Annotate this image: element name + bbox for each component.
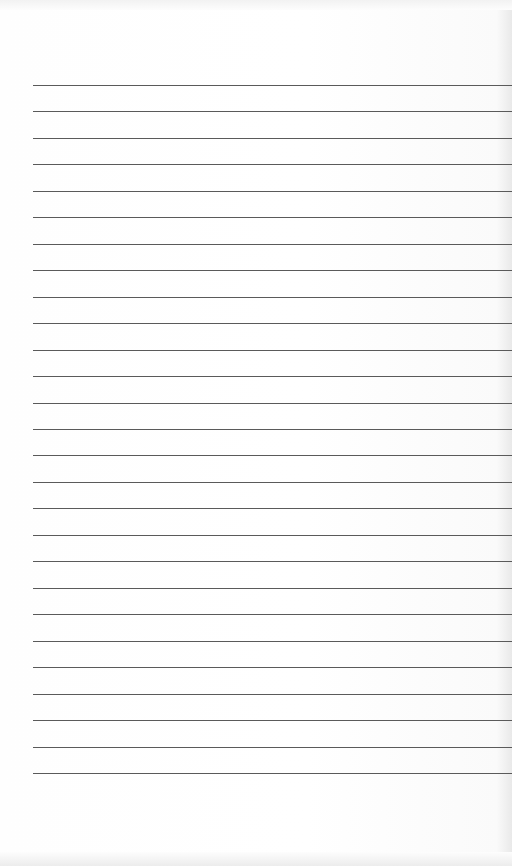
ruled-line bbox=[33, 138, 512, 139]
ruled-line bbox=[33, 482, 512, 483]
ruled-line bbox=[33, 588, 512, 589]
ruled-line bbox=[33, 164, 512, 165]
ruled-line bbox=[33, 720, 512, 721]
ruled-line bbox=[33, 694, 512, 695]
ruled-line bbox=[33, 508, 512, 509]
page-bottom-edge bbox=[0, 852, 512, 866]
ruled-line bbox=[33, 270, 512, 271]
ruled-line bbox=[33, 614, 512, 615]
ruled-line bbox=[33, 667, 512, 668]
ruled-line bbox=[33, 323, 512, 324]
ruled-line bbox=[33, 535, 512, 536]
lined-paper-page bbox=[0, 0, 512, 866]
ruled-line bbox=[33, 85, 512, 86]
ruled-line bbox=[33, 641, 512, 642]
ruled-line bbox=[33, 403, 512, 404]
ruled-line bbox=[33, 747, 512, 748]
ruled-line bbox=[33, 297, 512, 298]
ruled-line bbox=[33, 111, 512, 112]
ruled-line bbox=[33, 244, 512, 245]
ruled-line bbox=[33, 350, 512, 351]
ruled-line bbox=[33, 773, 512, 774]
ruled-line bbox=[33, 429, 512, 430]
ruled-line bbox=[33, 217, 512, 218]
ruled-line bbox=[33, 561, 512, 562]
ruled-line bbox=[33, 455, 512, 456]
page-top-edge bbox=[0, 0, 512, 10]
ruled-line bbox=[33, 191, 512, 192]
ruled-line bbox=[33, 376, 512, 377]
